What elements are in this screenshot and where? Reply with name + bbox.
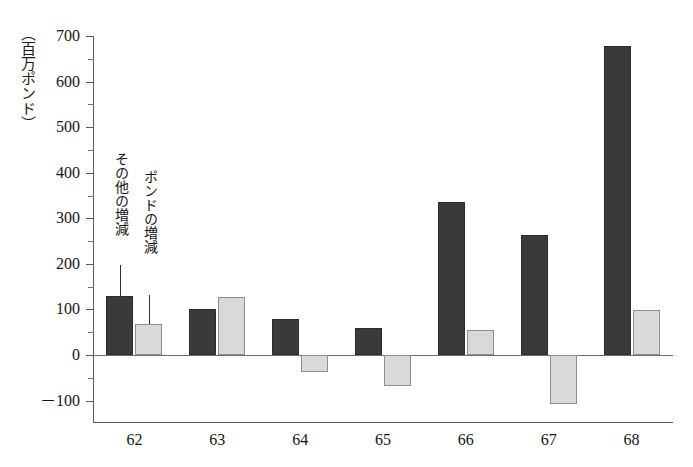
y-tick-label-600: 600	[22, 74, 80, 90]
x-axis-label-64: 64	[270, 432, 330, 448]
bar-65-series-2	[384, 355, 411, 386]
bar-chart: （百万ポンド） 7006005004003002001000－100 62636…	[0, 0, 693, 467]
bar-67-series-1	[521, 235, 548, 355]
x-axis-label-66: 66	[436, 432, 496, 448]
bar-68-series-2	[633, 310, 660, 355]
y-tick-label--100: －100	[22, 393, 80, 409]
annotation-leader-line-2	[149, 295, 150, 324]
plot-area	[93, 36, 673, 423]
annotation-label-2: ポンドの増減	[141, 170, 156, 254]
bar-66-series-1	[438, 202, 465, 355]
x-axis-label-67: 67	[519, 432, 579, 448]
bar-64-series-2	[301, 355, 328, 372]
bar-63-series-2	[218, 297, 245, 355]
bar-64-series-1	[272, 319, 299, 355]
bar-62-series-1	[106, 296, 133, 355]
y-tick-label-300: 300	[22, 210, 80, 226]
annotation-label-1: その他の増減	[112, 152, 127, 236]
bar-group-67	[521, 36, 577, 423]
bar-group-64	[272, 36, 328, 423]
x-axis-label-68: 68	[602, 432, 662, 448]
y-tick-label-100: 100	[22, 301, 80, 317]
x-axis-label-63: 63	[187, 432, 247, 448]
bar-group-66	[438, 36, 494, 423]
bar-68-series-1	[604, 46, 631, 355]
y-tick-label-0: 0	[22, 347, 80, 363]
x-axis-label-65: 65	[353, 432, 413, 448]
bar-group-63	[189, 36, 245, 423]
y-tick-label-500: 500	[22, 119, 80, 135]
bar-62-series-2	[135, 324, 162, 355]
bar-63-series-1	[189, 309, 216, 355]
y-tick-label-700: 700	[22, 28, 80, 44]
y-tick-label-200: 200	[22, 256, 80, 272]
bar-66-series-2	[467, 330, 494, 355]
axis-left-stub	[93, 408, 94, 423]
x-axis-label-62: 62	[104, 432, 164, 448]
annotation-leader-line-1	[120, 265, 121, 296]
bar-group-65	[355, 36, 411, 423]
axis-bottom-frame	[93, 422, 673, 423]
bar-group-68	[604, 36, 660, 423]
bar-65-series-1	[355, 328, 382, 355]
y-tick-label-400: 400	[22, 165, 80, 181]
bar-67-series-2	[550, 355, 577, 404]
